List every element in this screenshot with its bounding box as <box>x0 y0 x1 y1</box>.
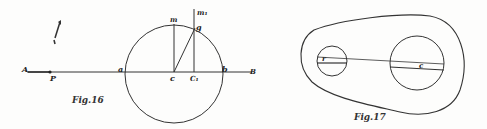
label-b: b <box>222 64 228 74</box>
label-P: P <box>49 73 57 83</box>
label-C1: C₁ <box>190 74 199 83</box>
large-circle <box>390 36 444 90</box>
outer-link-outline <box>301 15 464 114</box>
label-m: m <box>170 15 177 24</box>
caption-fig17: Fig.17 <box>353 112 386 122</box>
figure-17: r c Fig.17 <box>301 15 464 122</box>
radius-cg <box>174 28 195 72</box>
label-a: a <box>118 64 123 74</box>
arrow-tail <box>54 40 55 44</box>
label-c-17: c <box>419 61 424 70</box>
label-m1: m₁ <box>197 8 207 17</box>
label-A: A <box>21 64 28 74</box>
label-r: r <box>322 54 327 63</box>
arrow-shaft <box>55 22 60 38</box>
label-g: g <box>196 22 202 32</box>
label-c: c <box>170 73 175 83</box>
figures-svg: A P a c C₁ b B m m₁ g Fig.16 r c Fig.17 <box>0 0 487 129</box>
label-B: B <box>249 67 256 76</box>
figure-16: A P a c C₁ b B m m₁ g Fig.16 <box>21 8 256 123</box>
large-circle-bar <box>390 67 444 70</box>
diagram-canvas: A P a c C₁ b B m m₁ g Fig.16 r c Fig.17 <box>0 0 487 129</box>
caption-fig16: Fig.16 <box>71 95 104 105</box>
